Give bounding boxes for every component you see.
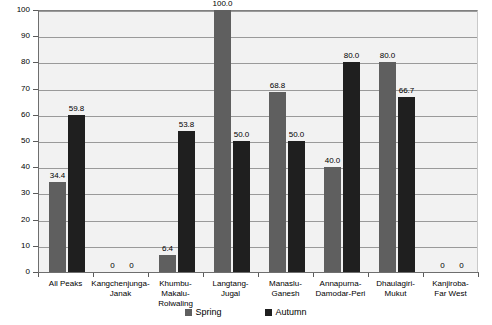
- legend-swatch-icon: [185, 309, 192, 316]
- bar-autumn-0: [68, 115, 85, 272]
- bar-value-label: 0: [445, 262, 478, 270]
- y-axis-tick: [33, 115, 38, 116]
- x-axis-tick: [38, 273, 39, 277]
- category-label: Kanjiroba-Far West: [414, 279, 487, 299]
- bar-chart: 0102030405060708090100 34.459.8006.453.8…: [0, 0, 492, 325]
- bar-value-label: 50.0: [280, 131, 313, 139]
- legend-item-spring[interactable]: Spring: [185, 307, 221, 318]
- bar-autumn-5: [343, 62, 360, 272]
- y-axis-tick: [33, 167, 38, 168]
- bar-autumn-4: [288, 141, 305, 272]
- y-axis-label: 100: [4, 6, 30, 14]
- x-axis-tick: [203, 273, 204, 277]
- bar-value-label: 6.4: [151, 245, 184, 253]
- bar-spring-4: [269, 92, 286, 272]
- bar-spring-2: [159, 255, 176, 272]
- bar-value-label: 80.0: [335, 52, 368, 60]
- y-axis-label: 20: [4, 216, 30, 224]
- y-axis-tick: [33, 246, 38, 247]
- bar-value-label: 50.0: [225, 131, 258, 139]
- y-axis-tick: [33, 36, 38, 37]
- x-axis-tick: [93, 273, 94, 277]
- bar-autumn-3: [233, 141, 250, 272]
- y-axis-label: 70: [4, 85, 30, 93]
- bars-layer: [39, 10, 478, 272]
- bar-value-label: 100.0: [206, 0, 239, 8]
- y-axis-tick: [33, 62, 38, 63]
- y-axis-tick: [33, 10, 38, 11]
- x-axis-tick: [313, 273, 314, 277]
- bar-spring-5: [324, 167, 341, 272]
- bar-value-label: 66.7: [390, 87, 423, 95]
- x-axis-tick: [148, 273, 149, 277]
- bar-spring-0: [49, 182, 66, 272]
- bar-value-label: 53.8: [170, 121, 203, 129]
- chart-title: [0, 0, 492, 1]
- legend-swatch-icon: [265, 309, 272, 316]
- y-axis-label: 90: [4, 32, 30, 40]
- legend-label: Autumn: [275, 307, 306, 318]
- y-axis-label: 0: [4, 268, 30, 276]
- y-axis-label: 60: [4, 111, 30, 119]
- legend-item-autumn[interactable]: Autumn: [265, 307, 306, 318]
- y-axis-label: 40: [4, 163, 30, 171]
- y-axis-tick: [33, 141, 38, 142]
- y-axis-tick: [33, 89, 38, 90]
- y-axis-tick: [33, 193, 38, 194]
- bar-value-label: 68.8: [261, 82, 294, 90]
- y-axis-tick: [33, 220, 38, 221]
- x-axis-tick: [368, 273, 369, 277]
- bar-spring-3: [214, 10, 231, 272]
- x-axis-tick: [478, 273, 479, 277]
- bar-value-label: 40.0: [316, 157, 349, 165]
- legend-label: Spring: [195, 307, 221, 318]
- bar-value-label: 59.8: [60, 105, 93, 113]
- bar-autumn-6: [398, 97, 415, 272]
- y-axis-label: 50: [4, 137, 30, 145]
- y-axis-label: 10: [4, 242, 30, 250]
- x-axis-tick: [258, 273, 259, 277]
- bar-value-label: 0: [115, 262, 148, 270]
- y-axis-label: 80: [4, 58, 30, 66]
- bar-value-label: 80.0: [371, 52, 404, 60]
- y-axis-label: 30: [4, 189, 30, 197]
- legend: SpringAutumn: [0, 307, 492, 318]
- x-axis-tick: [423, 273, 424, 277]
- bar-value-label: 34.4: [41, 172, 74, 180]
